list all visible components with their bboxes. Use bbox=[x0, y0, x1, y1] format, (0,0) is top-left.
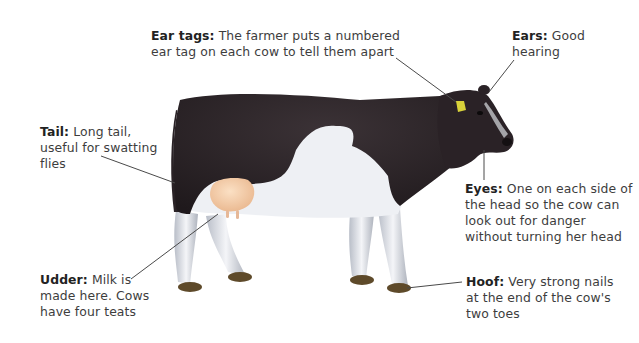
text-eyes-1: One on each side of bbox=[503, 181, 633, 196]
text-ears-2: hearing bbox=[512, 44, 560, 59]
text-eyes-2: the head so the cow can bbox=[465, 197, 619, 212]
text-ear-tags-2: ear tag on each cow to tell them apart bbox=[151, 44, 394, 59]
head bbox=[438, 85, 514, 169]
text-eyes-4: without turning her head bbox=[465, 229, 622, 244]
text-udder-3: have four teats bbox=[40, 304, 136, 319]
front-legs bbox=[349, 208, 411, 293]
hoof-front-left bbox=[350, 275, 374, 285]
text-eyes-3: look out for danger bbox=[465, 213, 586, 228]
label-ear-tags: Ear tags: The farmer puts a numbered ear… bbox=[151, 28, 451, 60]
term-hoof: Hoof: bbox=[466, 274, 504, 289]
term-ears: Ears: bbox=[512, 28, 548, 43]
leader-ears bbox=[489, 60, 514, 92]
term-tail: Tail: bbox=[40, 124, 69, 139]
text-tail-2: useful for swatting bbox=[40, 140, 157, 155]
text-tail-1: Long tail, bbox=[69, 124, 131, 139]
text-udder-1: Milk is bbox=[88, 272, 131, 287]
label-udder: Udder: Milk is made here. Cows have four… bbox=[40, 272, 180, 320]
label-ears: Ears: Good hearing bbox=[512, 28, 632, 60]
text-hoof-1: Very strong nails bbox=[504, 274, 613, 289]
label-hoof: Hoof: Very strong nails at the end of th… bbox=[466, 274, 636, 322]
hoof-hind-right bbox=[228, 272, 252, 282]
hind-legs bbox=[174, 210, 252, 292]
leader-udder bbox=[131, 214, 218, 279]
hoof-hind-left bbox=[178, 282, 202, 292]
term-udder: Udder: bbox=[40, 272, 88, 287]
text-ears-1: Good bbox=[548, 28, 585, 43]
nose bbox=[502, 138, 512, 146]
text-udder-2: made here. Cows bbox=[40, 288, 149, 303]
label-eyes: Eyes: One on each side of the head so th… bbox=[465, 181, 639, 245]
leader-ear-tags bbox=[396, 58, 456, 102]
term-eyes: Eyes: bbox=[465, 181, 503, 196]
text-ear-tags-1: The farmer puts a numbered bbox=[215, 28, 400, 43]
text-hoof-2: at the end of the cow's bbox=[466, 290, 611, 305]
cow-diagram: Ear tags: The farmer puts a numbered ear… bbox=[0, 0, 639, 343]
label-tail: Tail: Long tail, useful for swatting fli… bbox=[40, 124, 180, 172]
ear-icon bbox=[478, 85, 490, 95]
term-ear-tags: Ear tags: bbox=[151, 28, 215, 43]
text-tail-3: flies bbox=[40, 156, 66, 171]
leader-hoof bbox=[407, 282, 462, 288]
eye-icon bbox=[477, 111, 483, 115]
text-hoof-3: two toes bbox=[466, 306, 520, 321]
